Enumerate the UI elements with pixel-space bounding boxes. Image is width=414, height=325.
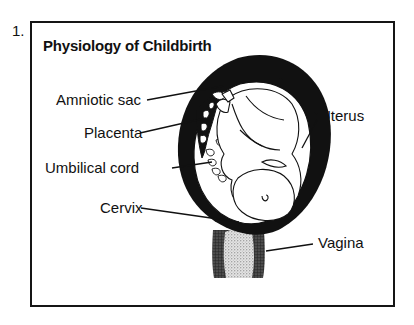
label-umbilical-cord: Umbilical cord [45, 159, 139, 176]
label-cervix: Cervix [100, 199, 143, 216]
label-vagina: Vagina [318, 234, 364, 251]
label-placenta: Placenta [84, 124, 142, 141]
label-uterus: Uterus [320, 107, 364, 124]
label-amniotic-sac: Amniotic sac [56, 91, 141, 108]
vagina-shape [212, 229, 265, 279]
